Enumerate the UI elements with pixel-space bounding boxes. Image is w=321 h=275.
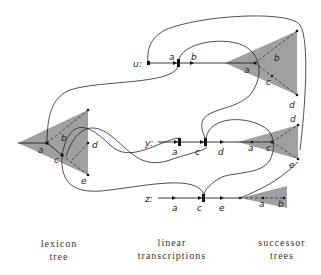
label-c: c xyxy=(54,155,59,165)
label-a: a xyxy=(244,65,250,75)
caption-successor-line1: successor xyxy=(258,237,305,248)
label-a: a xyxy=(259,199,265,209)
label-c: c xyxy=(197,203,202,213)
captions: lexicon tree linear transcriptions succe… xyxy=(41,237,306,262)
caption-successor-line2: trees xyxy=(270,250,294,261)
label-e: e xyxy=(81,176,87,186)
successor-tree-z: a b xyxy=(239,186,287,209)
label-a: a xyxy=(172,203,178,213)
label-e: e xyxy=(219,203,225,213)
caption-linear-line2: transcriptions xyxy=(138,250,206,261)
label-a: a xyxy=(248,143,254,153)
label-b: b xyxy=(274,53,280,63)
row-label-y: y: xyxy=(144,138,153,148)
label-e: e xyxy=(289,160,295,170)
label-c: c xyxy=(266,77,271,87)
lexicon-tree: a b c d e xyxy=(18,109,98,186)
label-a: a xyxy=(38,145,44,155)
label-b: b xyxy=(278,199,284,209)
label-a: a xyxy=(172,147,178,157)
caption-linear-line1: linear xyxy=(158,237,187,248)
label-a: a xyxy=(169,52,175,62)
caption-lexicon-line1: lexicon xyxy=(41,238,77,249)
label-d: d xyxy=(92,140,98,150)
label-d: d xyxy=(290,114,296,124)
label-d: d xyxy=(218,147,224,157)
caption-lexicon-line2: tree xyxy=(50,251,69,262)
row-z: z: a c e xyxy=(144,194,240,213)
label-b: b xyxy=(191,52,197,62)
label-d: d xyxy=(289,100,295,110)
label-c: c xyxy=(266,143,271,153)
diagram: a b c d a c d e a b xyxy=(0,0,321,275)
successor-tree-u: a b c d xyxy=(225,30,298,110)
row-label-z: z: xyxy=(144,194,153,204)
row-label-u: u: xyxy=(133,59,142,69)
